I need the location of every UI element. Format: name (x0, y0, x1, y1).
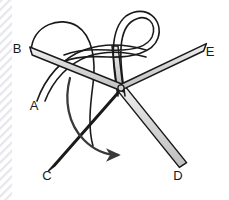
label-e: E (206, 44, 215, 59)
label-d: D (173, 168, 182, 183)
knot-diagram-figure: B A C D E (0, 0, 229, 200)
label-c: C (42, 168, 51, 183)
left-edge-texture (0, 0, 12, 200)
label-a: A (30, 98, 39, 113)
diagram-canvas: B A C D E (0, 0, 229, 200)
rod-hub (118, 85, 124, 91)
label-b: B (13, 41, 22, 56)
